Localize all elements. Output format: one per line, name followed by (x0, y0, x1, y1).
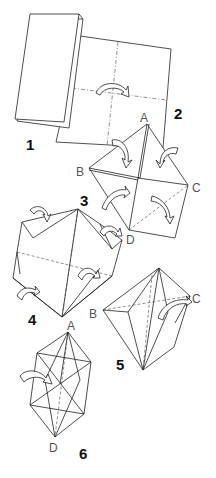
fold-arrow-icon (17, 286, 40, 300)
step-number-4: 4 (28, 311, 37, 328)
step-number-1: 1 (26, 136, 34, 153)
point-label-b-step5: B (89, 307, 97, 321)
step-number-2: 2 (174, 105, 182, 122)
origami-diagram: 1 2 3 4 5 6 A B C D A B C D (0, 0, 216, 478)
step6-diamond-shape (20, 332, 91, 437)
point-label-c: C (192, 181, 201, 195)
point-label-a-step6: A (67, 319, 75, 333)
point-label-d: D (126, 233, 135, 247)
point-label-b: B (76, 165, 84, 179)
point-label-c-step5: C (192, 292, 201, 306)
step-number-3: 3 (80, 192, 88, 209)
step-number-5: 5 (116, 356, 124, 373)
step4-folded-form (13, 207, 122, 317)
step5-kite-shape (103, 268, 192, 370)
point-label-a: A (140, 111, 148, 125)
step-number-6: 6 (79, 445, 87, 462)
point-label-d-step6: D (49, 441, 58, 455)
